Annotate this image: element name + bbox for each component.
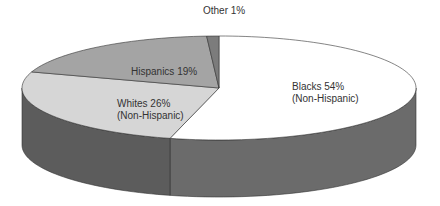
label-other: Other 1%: [203, 5, 245, 17]
label-blacks: Blacks 54% (Non-Hispanic): [292, 81, 359, 105]
pie-chart: [0, 0, 440, 206]
label-whites: Whites 26% (Non-Hispanic): [117, 98, 184, 122]
label-hispanics: Hispanics 19%: [131, 66, 197, 78]
